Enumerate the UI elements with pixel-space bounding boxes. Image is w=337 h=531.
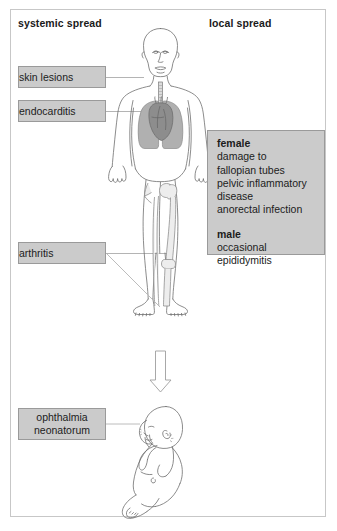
label-skin-lesions[interactable]: skin lesions bbox=[18, 66, 106, 88]
heading-local-spread: local spread bbox=[209, 17, 271, 29]
connector-endocarditis bbox=[106, 111, 148, 112]
local-female-line-1: damage to bbox=[217, 150, 316, 163]
local-female-line-4: disease bbox=[217, 190, 316, 203]
local-female-line-5: anorectal infection bbox=[217, 203, 316, 216]
label-ophthalmia-neonatorum[interactable]: ophthalmia neonatorum bbox=[18, 408, 106, 440]
label-ophthalmia-neonatorum-text: ophthalmia neonatorum bbox=[19, 411, 105, 437]
label-endocarditis[interactable]: endocarditis bbox=[18, 100, 106, 122]
connector-skin-lesions bbox=[106, 77, 144, 78]
label-arthritis[interactable]: arthritis bbox=[18, 242, 106, 264]
label-skin-lesions-text: skin lesions bbox=[19, 71, 98, 84]
local-male-line-1: occasional bbox=[217, 241, 316, 254]
diagram-root: systemic spread local spread bbox=[0, 0, 337, 531]
ophthalmia-line-1: ophthalmia bbox=[36, 411, 87, 423]
label-endocarditis-text: endocarditis bbox=[19, 105, 98, 118]
ophthalmia-line-2: neonatorum bbox=[34, 424, 90, 436]
panel-local-spread: female damage to fallopian tubes pelvic … bbox=[207, 130, 325, 255]
local-male-title: male bbox=[217, 228, 316, 241]
label-arthritis-text: arthritis bbox=[19, 247, 98, 260]
connector-arthritis-knee bbox=[106, 253, 168, 254]
local-female-title: female bbox=[217, 137, 316, 150]
heading-systemic-spread: systemic spread bbox=[18, 17, 102, 29]
local-male-line-2: epididymitis bbox=[217, 254, 316, 267]
local-female-line-3: pelvic inflammatory bbox=[217, 177, 316, 190]
local-female-line-2: fallopian tubes bbox=[217, 164, 316, 177]
